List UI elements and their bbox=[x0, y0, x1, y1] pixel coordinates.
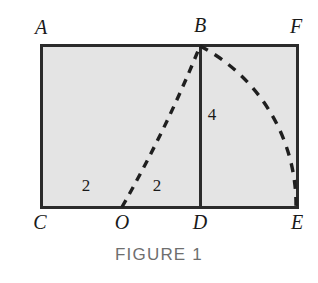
figure-caption: FIGURE 1 bbox=[0, 245, 318, 265]
geometry-figure: A B F C O D E 2 2 4 FIGURE 1 bbox=[0, 0, 318, 283]
vertex-label-b: B bbox=[187, 15, 213, 35]
vertex-label-f: F bbox=[283, 16, 309, 36]
vertex-label-d: D bbox=[187, 212, 213, 232]
length-label-od: 2 bbox=[147, 177, 167, 194]
figure-canvas bbox=[0, 0, 318, 283]
length-label-bd: 4 bbox=[202, 106, 222, 123]
vertex-label-e: E bbox=[284, 212, 310, 232]
vertex-label-a: A bbox=[28, 17, 54, 37]
vertex-label-o: O bbox=[109, 212, 135, 232]
vertex-label-c: C bbox=[27, 212, 53, 232]
length-label-co: 2 bbox=[76, 177, 96, 194]
